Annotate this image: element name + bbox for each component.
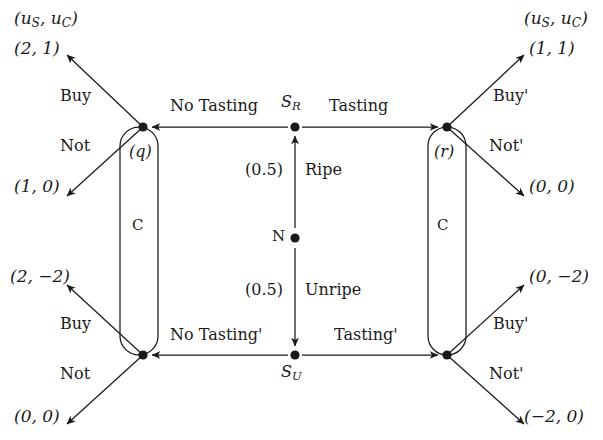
payoff-br-not: (−2, 0) [524, 408, 584, 425]
node-SU [290, 350, 299, 359]
action-bl-buy: Buy [60, 316, 91, 332]
label-node-nature: N [272, 229, 285, 244]
action-ripe: Ripe [305, 162, 342, 178]
action-tasting: Tasting [329, 98, 388, 114]
payoff-header-right: (uS, uC) [524, 10, 588, 30]
info-set-left-outline [120, 127, 158, 355]
action-no-tasting-prime: No Tasting' [170, 327, 262, 343]
action-no-tasting: No Tasting [170, 98, 258, 114]
probability-ripe: (0.5) [245, 162, 283, 178]
belief-label-r: (r) [434, 144, 454, 160]
action-tl-buy: Buy [60, 88, 91, 104]
action-tl-not: Not [60, 138, 90, 154]
node-q-top [138, 122, 147, 131]
payoff-tr-not: (0, 0) [529, 178, 575, 195]
payoff-bl-not: (0, 0) [14, 408, 60, 425]
player-label-left-C: C [132, 218, 143, 233]
node-r-bottom [442, 350, 451, 359]
payoff-br-buy: (0, −2) [529, 268, 589, 285]
action-bl-not: Not [60, 366, 90, 382]
payoff-tl-not: (1, 0) [14, 178, 60, 195]
label-node-SR: SR [281, 94, 301, 113]
payoff-bl-buy: (2, −2) [10, 268, 70, 285]
player-label-right-C: C [437, 218, 448, 233]
payoff-tl-buy: (2, 1) [14, 40, 60, 57]
node-r-top [442, 122, 451, 131]
action-unripe: Unripe [305, 282, 361, 298]
payoff-header-left: (uS, uC) [14, 10, 78, 30]
info-set-right-outline [428, 127, 466, 355]
node-q-bottom [138, 350, 147, 359]
node-nature [290, 233, 299, 242]
action-br-buy: Buy' [493, 316, 529, 332]
action-tr-not: Not' [489, 138, 523, 154]
action-tr-buy: Buy' [493, 88, 529, 104]
belief-label-q: (q) [129, 144, 152, 160]
action-br-not: Not' [489, 366, 523, 382]
label-node-SU: SU [281, 364, 302, 383]
node-SR [290, 122, 299, 131]
game-tree-diagram: (uS, uC) (uS, uC) (2, 1) Buy Not (1, 0) … [0, 0, 603, 440]
probability-unripe: (0.5) [245, 282, 283, 298]
action-tasting-prime: Tasting' [334, 327, 398, 343]
payoff-tr-buy: (1, 1) [529, 40, 575, 57]
